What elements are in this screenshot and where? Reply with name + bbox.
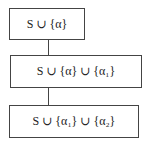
node-1: S ∪ {α}: [9, 8, 85, 40]
node-3: S ∪ {α₁} ∪ {α₂}: [9, 105, 139, 138]
edge-2-3: [48, 88, 49, 105]
edge-1-2: [48, 40, 49, 55]
node-3-label: S ∪ {α₁} ∪ {α₂}: [33, 114, 116, 129]
node-1-label: S ∪ {α}: [27, 17, 68, 32]
node-2: S ∪ {α} ∪ {α₁}: [10, 55, 142, 88]
node-2-label: S ∪ {α} ∪ {α₁}: [37, 64, 116, 79]
